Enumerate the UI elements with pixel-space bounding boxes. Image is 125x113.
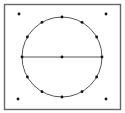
perimeter-dot xyxy=(61,16,64,19)
perimeter-dot xyxy=(21,56,24,59)
perimeter-dot xyxy=(61,96,64,99)
corner-dot xyxy=(17,98,20,101)
perimeter-dot xyxy=(95,36,98,39)
perimeter-dot xyxy=(26,76,29,79)
perimeter-dot xyxy=(41,21,44,24)
diagram-canvas xyxy=(0,0,125,113)
perimeter-dot xyxy=(26,36,29,39)
center-dot xyxy=(61,56,64,59)
corner-dot xyxy=(105,98,108,101)
perimeter-dot xyxy=(81,21,84,24)
circle-in-square-diagram xyxy=(0,0,125,113)
perimeter-dot xyxy=(101,56,104,59)
corner-dot xyxy=(18,13,21,16)
perimeter-dot xyxy=(81,90,84,93)
corner-dot xyxy=(105,13,108,16)
perimeter-dot xyxy=(95,76,98,79)
perimeter-dot xyxy=(41,90,44,93)
